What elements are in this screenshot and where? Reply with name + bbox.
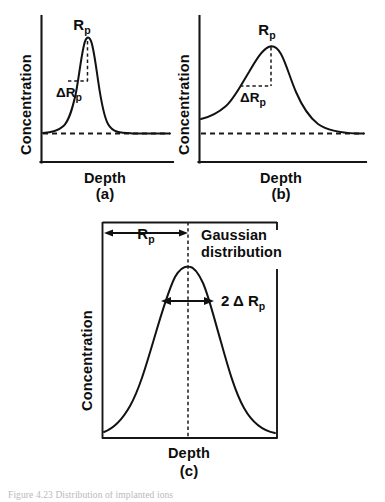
panel-a-x-axis-label: Depth xyxy=(84,170,126,186)
panel-b-width-label: ΔRp xyxy=(240,90,266,108)
panel-b: Rp ΔRp Concentration Depth (b) xyxy=(176,16,366,202)
panel-a-width-label: ΔRp xyxy=(56,85,82,103)
panel-b-curve xyxy=(201,46,364,133)
panel-a-peak-label: Rp xyxy=(73,16,90,36)
panel-c-rp-arrowhead-right xyxy=(179,230,188,237)
panel-c-x-axis-label: Depth xyxy=(168,445,210,461)
panel-c-annotation-line1: Gaussian xyxy=(201,227,267,243)
panel-c-range-label: Rp xyxy=(137,225,154,245)
panel-a: Rp ΔRp Concentration Depth (a) xyxy=(18,16,173,202)
panel-c: Rp 2 Δ Rp Gaussian distribution Concentr… xyxy=(79,222,282,479)
panel-b-y-axis-label: Concentration xyxy=(176,54,192,155)
panel-c-y-axis-label: Concentration xyxy=(79,310,95,411)
panel-a-y-axis-label: Concentration xyxy=(18,54,34,155)
panel-c-annotation-line2: distribution xyxy=(201,244,282,260)
panel-b-x-axis-label: Depth xyxy=(260,170,302,186)
panel-b-peak-label: Rp xyxy=(258,21,275,41)
figure-svg: Rp ΔRp Concentration Depth (a) xyxy=(0,0,385,502)
panel-a-letter: (a) xyxy=(96,185,114,202)
panel-b-letter: (b) xyxy=(271,185,290,202)
figure-caption-clip: Figure 4.23 Distribution of implanted io… xyxy=(0,491,385,502)
figure-container: Rp ΔRp Concentration Depth (a) xyxy=(0,0,385,502)
panel-c-rp-arrowhead-left xyxy=(104,230,113,237)
panel-c-letter: (c) xyxy=(180,462,198,479)
figure-caption: Figure 4.23 Distribution of implanted io… xyxy=(8,491,173,500)
panel-c-fwhm-label: 2 Δ Rp xyxy=(221,292,265,312)
